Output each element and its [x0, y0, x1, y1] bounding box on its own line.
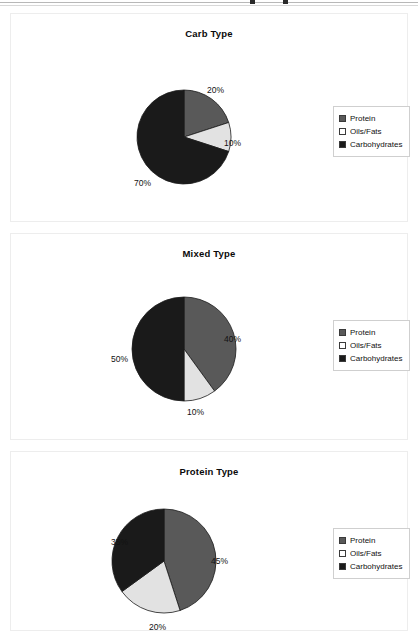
slice-label-oils-fats-proteintype: 20% [149, 622, 166, 632]
pie-mixed-type[interactable] [131, 296, 237, 402]
chart-panel-carb-type[interactable]: Carb Type 20% 10% 70% Protein Oils/Fats … [10, 13, 408, 222]
chart-panel-protein-type[interactable]: Protein Type 45% 20% 35% Protein Oils/Fa… [10, 451, 408, 631]
legend-label-carbohydrates: Carbohydrates [350, 352, 402, 365]
legend-mixed-type: Protein Oils/Fats Carbohydrates [333, 320, 410, 371]
legend-item-carbohydrates[interactable]: Carbohydrates [339, 560, 402, 573]
legend-item-protein[interactable]: Protein [339, 112, 402, 125]
legend-swatch-protein-icon [339, 329, 346, 336]
legend-label-carbohydrates: Carbohydrates [350, 560, 402, 573]
slice-label-protein-mixed: 40% [224, 334, 241, 344]
legend-carb-type: Protein Oils/Fats Carbohydrates [333, 106, 410, 157]
slice-label-carbohydrates-mixed: 50% [111, 354, 128, 364]
chart-panel-mixed-type[interactable]: Mixed Type 40% 10% 50% Protein Oils/Fats… [10, 233, 408, 440]
pie-protein-type[interactable] [111, 508, 217, 614]
slice-label-oils-fats-mixed: 10% [187, 407, 204, 417]
legend-label-protein: Protein [350, 534, 375, 547]
legend-label-protein: Protein [350, 326, 375, 339]
legend-item-oils-fats[interactable]: Oils/Fats [339, 547, 402, 560]
legend-item-protein[interactable]: Protein [339, 534, 402, 547]
slice-label-carbohydrates-carb: 70% [134, 178, 151, 188]
legend-swatch-oils-fats-icon [339, 128, 346, 135]
legend-label-carbohydrates: Carbohydrates [350, 138, 402, 151]
legend-swatch-carbohydrates-icon [339, 355, 346, 362]
legend-swatch-oils-fats-icon [339, 342, 346, 349]
legend-swatch-oils-fats-icon [339, 550, 346, 557]
legend-item-carbohydrates[interactable]: Carbohydrates [339, 352, 402, 365]
legend-item-oils-fats[interactable]: Oils/Fats [339, 125, 402, 138]
pie-carb-type[interactable] [136, 89, 232, 185]
slice-label-oils-fats-carb: 10% [224, 138, 241, 148]
pie-slice-carbohydrates[interactable] [132, 297, 184, 401]
legend-label-protein: Protein [350, 112, 375, 125]
legend-label-oils-fats: Oils/Fats [350, 339, 382, 352]
slice-label-protein-proteintype: 45% [211, 556, 228, 566]
slice-label-protein-carb: 20% [207, 85, 224, 95]
legend-swatch-carbohydrates-icon [339, 563, 346, 570]
legend-protein-type: Protein Oils/Fats Carbohydrates [333, 528, 410, 579]
legend-item-protein[interactable]: Protein [339, 326, 402, 339]
legend-label-oils-fats: Oils/Fats [350, 547, 382, 560]
legend-swatch-protein-icon [339, 537, 346, 544]
legend-label-oils-fats: Oils/Fats [350, 125, 382, 138]
legend-swatch-carbohydrates-icon [339, 141, 346, 148]
legend-swatch-protein-icon [339, 115, 346, 122]
legend-item-oils-fats[interactable]: Oils/Fats [339, 339, 402, 352]
slice-label-carbohydrates-proteintype: 35% [111, 537, 128, 547]
legend-item-carbohydrates[interactable]: Carbohydrates [339, 138, 402, 151]
